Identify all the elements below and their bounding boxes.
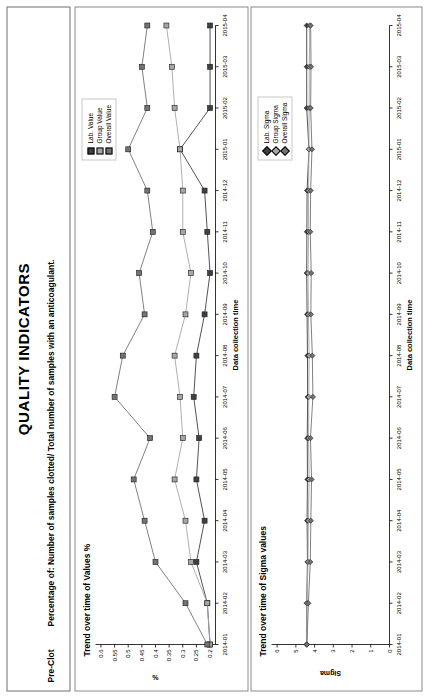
svg-text:2014-07: 2014-07 [221,385,227,408]
svg-text:6: 6 [274,648,280,652]
svg-text:2014-12: 2014-12 [221,178,227,201]
svg-text:0.55: 0.55 [111,648,117,660]
svg-text:2014-08: 2014-08 [221,343,227,366]
sigma-chart-svg: 0123456Sigma2014-012014-022014-032014-04… [265,7,419,690]
svg-text:0.3: 0.3 [179,648,185,657]
svg-text:3: 3 [330,648,336,652]
svg-text:2014-02: 2014-02 [221,591,227,614]
sigma-plot-area: 0123456Sigma2014-012014-022014-032014-04… [265,7,419,690]
svg-text:2015-04: 2015-04 [395,13,401,36]
report-sheet: QUALITY INDICATORS Pre-Clot Percentage o… [0,0,428,699]
svg-text:2015-04: 2015-04 [221,13,227,36]
svg-text:2014-06: 2014-06 [221,426,227,449]
values-chart-panel: Trend over time of Values % Lab. Value G… [74,6,248,691]
indicator-description: Percentage of: Number of samples clotted… [45,259,55,626]
svg-text:0: 0 [386,648,392,652]
svg-text:2014-03: 2014-03 [221,550,227,573]
svg-text:2015-02: 2015-02 [395,96,401,119]
page-title: QUALITY INDICATORS [14,7,31,690]
svg-text:1: 1 [367,648,373,652]
svg-text:2014-11: 2014-11 [221,220,227,242]
svg-text:2014-10: 2014-10 [395,261,401,284]
svg-text:5: 5 [292,648,298,652]
svg-text:0.25: 0.25 [193,648,199,660]
indicator-key: Pre-Clot [45,649,55,682]
svg-text:0.35: 0.35 [166,648,172,660]
svg-text:2015-03: 2015-03 [221,55,227,78]
report-page: QUALITY INDICATORS Pre-Clot Percentage o… [0,0,428,699]
svg-text:2015-01: 2015-01 [221,137,227,160]
svg-text:2014-01: 2014-01 [221,632,227,655]
svg-text:Sigma: Sigma [319,668,340,676]
svg-text:0.4: 0.4 [152,648,158,657]
svg-text:2015-03: 2015-03 [395,55,401,78]
values-plot-area: 0.20.250.30.350.40.450.50.550.6%2014-012… [89,7,245,690]
svg-text:2014-06: 2014-06 [395,426,401,449]
svg-text:2014-04: 2014-04 [221,509,227,532]
svg-text:2: 2 [349,648,355,652]
svg-text:2014-02: 2014-02 [395,591,401,614]
svg-text:2014-05: 2014-05 [395,467,401,490]
svg-text:0.2: 0.2 [207,648,213,657]
svg-text:2014-05: 2014-05 [221,467,227,490]
svg-text:2015-02: 2015-02 [221,96,227,119]
svg-text:2014-08: 2014-08 [395,343,401,366]
svg-text:%: % [151,673,158,680]
svg-text:2014-11: 2014-11 [395,220,401,242]
sigma-chart-panel: Trend over time of Sigma values Lab. Sig… [250,6,422,691]
svg-text:2015-01: 2015-01 [395,137,401,160]
svg-text:2014-12: 2014-12 [395,178,401,201]
values-chart-svg: 0.20.250.30.350.40.450.50.550.6%2014-012… [89,7,245,690]
svg-text:0.5: 0.5 [125,648,131,657]
svg-text:4: 4 [311,648,317,652]
svg-text:2014-04: 2014-04 [395,509,401,532]
svg-text:2014-07: 2014-07 [395,385,401,408]
svg-text:2014-03: 2014-03 [395,550,401,573]
rotated-canvas: QUALITY INDICATORS Pre-Clot Percentage o… [0,0,428,699]
svg-text:Data collection time: Data collection time [404,299,413,370]
report-header: QUALITY INDICATORS Pre-Clot Percentage o… [6,6,70,691]
svg-text:2014-09: 2014-09 [221,302,227,325]
svg-text:0.45: 0.45 [138,648,144,660]
svg-text:2014-01: 2014-01 [395,632,401,655]
svg-text:2014-09: 2014-09 [395,302,401,325]
svg-text:0.6: 0.6 [97,648,103,657]
svg-text:Data collection time: Data collection time [230,299,239,370]
svg-text:2014-10: 2014-10 [221,261,227,284]
